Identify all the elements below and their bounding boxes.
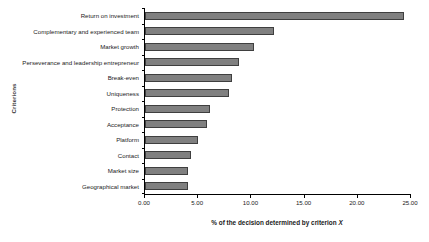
bar bbox=[145, 151, 191, 159]
bar-slot bbox=[145, 86, 411, 102]
x-tick-mark bbox=[410, 195, 411, 198]
bar-slot bbox=[145, 39, 411, 55]
category-label: Break-even bbox=[20, 70, 142, 86]
x-tick-label: 20.00 bbox=[349, 199, 364, 206]
category-label: Geographical market bbox=[20, 179, 142, 195]
x-tick-mark bbox=[357, 195, 358, 198]
bar bbox=[145, 27, 274, 35]
bar bbox=[145, 43, 254, 51]
bar bbox=[145, 58, 239, 66]
x-tick-mark bbox=[144, 195, 145, 198]
y-tick-mark bbox=[142, 193, 145, 194]
bar-slot bbox=[145, 101, 411, 117]
y-tick-mark bbox=[142, 39, 145, 40]
horizontal-bar-chart: Criterions Return on investmentComplemen… bbox=[0, 0, 429, 242]
x-axis-title: % of the decision determined by criterio… bbox=[144, 219, 410, 226]
x-tick-mark bbox=[250, 195, 251, 198]
bar bbox=[145, 74, 232, 82]
category-label: Complementary and experienced team bbox=[20, 24, 142, 40]
x-axis-title-variable: X bbox=[338, 219, 342, 226]
x-axis-ticks: 0.005.0010.0015.0020.0025.00 bbox=[144, 195, 410, 211]
y-tick-mark bbox=[142, 117, 145, 118]
category-label: Market growth bbox=[20, 39, 142, 55]
bar-slot bbox=[145, 132, 411, 148]
plot-area bbox=[144, 8, 411, 195]
x-tick-label: 0.00 bbox=[138, 199, 150, 206]
category-label: Acceptance bbox=[20, 117, 142, 133]
category-label: Perseverance and leadership entrepreneur bbox=[20, 55, 142, 71]
y-tick-mark bbox=[142, 24, 145, 25]
bar bbox=[145, 120, 207, 128]
bar-slot bbox=[145, 117, 411, 133]
y-tick-mark bbox=[142, 179, 145, 180]
bar-slot bbox=[145, 148, 411, 164]
y-axis-title-text: Criterions bbox=[10, 83, 17, 113]
y-tick-mark bbox=[142, 132, 145, 133]
x-axis-title-text: % of the decision determined by criterio… bbox=[211, 219, 338, 226]
y-tick-mark bbox=[142, 101, 145, 102]
category-label: Return on investment bbox=[20, 8, 142, 24]
y-tick-mark bbox=[142, 163, 145, 164]
y-tick-mark bbox=[142, 8, 145, 9]
bar bbox=[145, 182, 188, 190]
x-tick-mark bbox=[197, 195, 198, 198]
bar bbox=[145, 105, 210, 113]
y-tick-mark bbox=[142, 86, 145, 87]
x-tick-mark bbox=[304, 195, 305, 198]
bar bbox=[145, 89, 229, 97]
bar-slot bbox=[145, 163, 411, 179]
x-tick-label: 10.00 bbox=[243, 199, 258, 206]
bars-layer bbox=[145, 8, 411, 194]
category-label: Protection bbox=[20, 101, 142, 117]
x-tick-label: 5.00 bbox=[191, 199, 203, 206]
bar-slot bbox=[145, 70, 411, 86]
x-tick-label: 25.00 bbox=[402, 199, 417, 206]
x-tick-label: 15.00 bbox=[296, 199, 311, 206]
y-axis-category-labels: Return on investmentComplementary and ex… bbox=[20, 8, 142, 194]
category-label: Platform bbox=[20, 132, 142, 148]
y-tick-mark bbox=[142, 70, 145, 71]
y-tick-mark bbox=[142, 55, 145, 56]
bar-slot bbox=[145, 55, 411, 71]
bar bbox=[145, 12, 404, 20]
y-tick-mark bbox=[142, 148, 145, 149]
bar-slot bbox=[145, 24, 411, 40]
bar-slot bbox=[145, 8, 411, 24]
bar-slot bbox=[145, 179, 411, 195]
bar bbox=[145, 167, 188, 175]
category-label: Contact bbox=[20, 148, 142, 164]
category-label: Uniqueness bbox=[20, 86, 142, 102]
bar bbox=[145, 136, 198, 144]
category-label: Market size bbox=[20, 163, 142, 179]
